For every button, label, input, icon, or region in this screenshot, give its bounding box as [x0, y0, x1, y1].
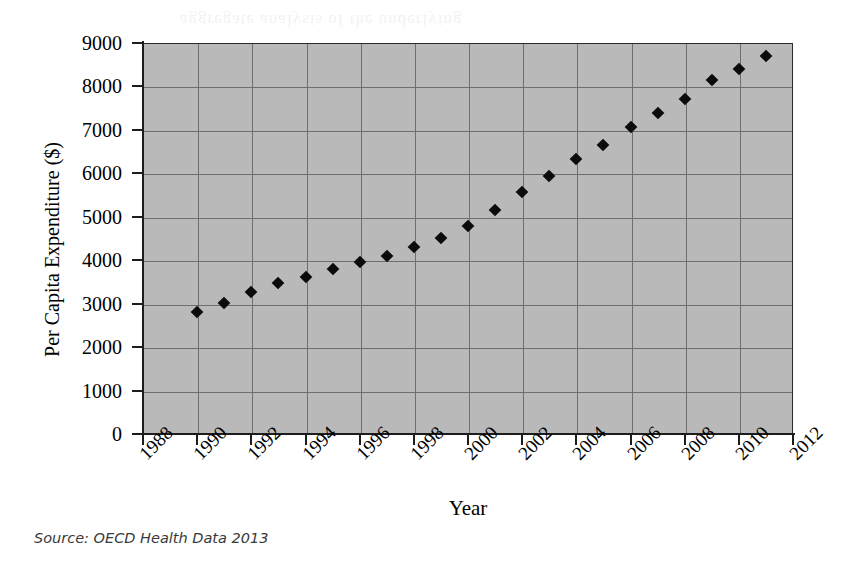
gridline-vertical: [577, 44, 578, 433]
gridline-vertical: [523, 44, 524, 433]
gridline-horizontal: [144, 261, 792, 262]
y-axis-tick: [132, 129, 143, 131]
y-axis-tick: [132, 346, 143, 348]
y-axis-tick-label-text: 0: [48, 424, 122, 444]
gridline-horizontal: [144, 305, 792, 306]
y-axis-line: [142, 41, 144, 436]
chart-figure: aggregate analysis of the underlying 010…: [0, 0, 846, 567]
y-axis-tick: [132, 85, 143, 87]
gridline-horizontal: [144, 348, 792, 349]
gridline-vertical: [632, 44, 633, 433]
gridline-vertical: [198, 44, 199, 433]
y-axis-tick: [132, 216, 143, 218]
y-axis-tick: [132, 390, 143, 392]
gridline-vertical: [415, 44, 416, 433]
gridline-horizontal: [144, 87, 792, 88]
gridline-horizontal: [144, 131, 792, 132]
y-axis-tick: [132, 172, 143, 174]
y-axis-tick: [132, 42, 143, 44]
gridline-horizontal: [144, 392, 792, 393]
gridline-vertical: [740, 44, 741, 433]
gridline-horizontal: [144, 174, 792, 175]
gridline-horizontal: [144, 218, 792, 219]
gridline-vertical: [469, 44, 470, 433]
gridline-vertical: [361, 44, 362, 433]
y-axis-tick: [132, 259, 143, 261]
gridline-vertical: [307, 44, 308, 433]
y-axis-tick: [132, 303, 143, 305]
x-axis-title: Year: [143, 496, 793, 521]
page-bleed-through-text: aggregate analysis of the underlying: [180, 0, 650, 30]
y-axis-title: Per Capita Expenditure ($): [41, 80, 64, 420]
y-axis-tick-label-text: 9000: [48, 33, 122, 53]
source-note: Source: OECD Health Data 2013: [34, 530, 268, 546]
gridline-vertical: [252, 44, 253, 433]
plot-area: [143, 43, 793, 434]
